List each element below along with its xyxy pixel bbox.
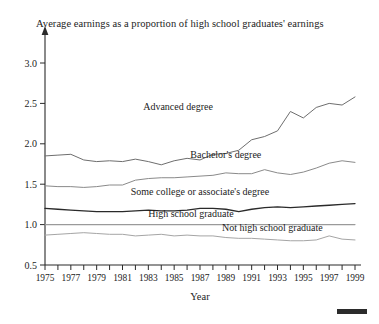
series-label-1: Bachelor's degree: [190, 149, 261, 160]
x-axis-tick-label: 1983: [139, 273, 158, 283]
series-line-1: [45, 161, 355, 188]
x-axis-tick-label: 1991: [242, 273, 261, 283]
series-line-4: [45, 233, 355, 241]
x-axis-tick-label: 1997: [320, 273, 339, 283]
series-label-4: Not high school graduate: [222, 222, 323, 233]
series-label-0: Advanced degree: [143, 101, 213, 112]
y-axis-tick-label: 2.5: [25, 98, 38, 109]
y-axis-tick-label: 3.0: [25, 58, 38, 69]
x-axis-tick-label: 1981: [113, 273, 132, 283]
y-axis-tick-label: 1.5: [25, 179, 38, 190]
y-axis-tick-label: 1.0: [25, 219, 38, 230]
y-axis-tick-label: 0.5: [25, 260, 38, 271]
x-axis-tick-label: 1979: [87, 273, 106, 283]
x-axis-title: Year: [190, 291, 210, 302]
x-axis-tick-label: 1995: [294, 273, 313, 283]
x-axis-tick-label: 1975: [36, 273, 55, 283]
x-axis-tick-label: 1985: [165, 273, 184, 283]
x-axis-tick-label: 1977: [61, 273, 80, 283]
x-axis-tick-label: 1993: [268, 273, 287, 283]
figure-container: Average earnings as a proportion of high…: [0, 0, 379, 324]
series-label-2: Some college or associate's degree: [131, 186, 270, 197]
y-axis-arrow-icon: [42, 26, 49, 35]
line-chart-plot: 0.51.01.52.02.53.01975197719791981198319…: [0, 0, 379, 324]
x-axis-tick-label: 1999: [346, 273, 365, 283]
x-axis-tick-label: 1989: [216, 273, 235, 283]
series-label-3: High school graduate: [148, 208, 234, 219]
x-axis-tick-label: 1987: [191, 273, 210, 283]
y-axis-tick-label: 2.0: [25, 138, 38, 149]
corner-scale-mark: [337, 309, 367, 314]
